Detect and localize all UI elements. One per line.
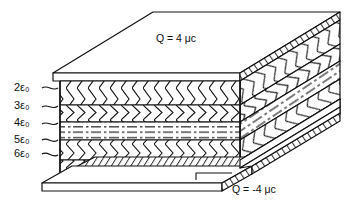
front-face-layer-2eps [60, 81, 240, 105]
leader-line-2eps [42, 87, 58, 89]
top-plate-front-edge [53, 73, 240, 81]
bottom-charge-label: Q = -4 μc [232, 183, 276, 195]
front-face-layer-3eps [60, 105, 240, 122]
leader-line-4eps [42, 123, 58, 125]
capacitor-diagram: Q = 4 μc Q = -4 μc 2ε₀ 3ε₀ 4ε₀ 5ε₀ 6ε₀ [0, 0, 357, 203]
leader-lines [42, 87, 58, 156]
layer-label-3eps: 3ε₀ [14, 99, 30, 111]
bottom-plate-front-edge [42, 183, 222, 191]
leader-line-6eps [42, 153, 58, 156]
layer-label-6eps: 6ε₀ [14, 147, 30, 159]
bottom-plate-upper-face [42, 166, 252, 183]
figure-canvas: Q = 4 μc Q = -4 μc 2ε₀ 3ε₀ 4ε₀ 5ε₀ 6ε₀ [0, 0, 357, 203]
layer-label-5eps: 5ε₀ [14, 133, 30, 145]
leader-line-5eps [42, 139, 58, 142]
leader-line-3eps [42, 106, 58, 108]
front-face-layer-4eps [60, 122, 240, 140]
layer-label-4eps: 4ε₀ [14, 116, 30, 128]
top-charge-label: Q = 4 μc [156, 32, 196, 44]
layer-label-2eps: 2ε₀ [14, 81, 30, 93]
